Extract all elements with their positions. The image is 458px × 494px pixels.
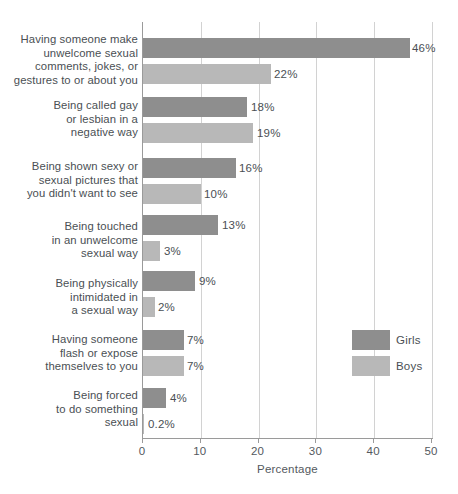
category-label-0-line-0: Having someone make: [0, 33, 138, 47]
bar-value-girls-3: 13%: [222, 215, 246, 235]
category-label-0-line-3: gestures to or about you: [0, 74, 138, 88]
bar-boys-5: [143, 356, 184, 376]
gridline-30: [316, 22, 317, 438]
category-label-0-line-2: comments, jokes, or: [0, 60, 138, 74]
bar-value-girls-4: 9%: [199, 271, 216, 291]
x-tick-10: [200, 438, 201, 443]
bar-value-boys-4: 2%: [158, 297, 175, 317]
x-tick-label-30: 30: [295, 445, 335, 457]
category-label-1: Being called gay or lesbian in a negativ…: [0, 99, 138, 140]
category-label-5: Having someone flash or expose themselve…: [0, 333, 138, 374]
category-label-6: Being forced to do something sexual: [0, 389, 138, 430]
category-label-4-line-0: Being physically: [0, 277, 138, 291]
category-label-1-line-0: Being called gay: [0, 99, 138, 113]
category-label-5-line-1: flash or expose: [0, 347, 138, 361]
bar-value-boys-0: 22%: [274, 64, 298, 84]
bar-girls-6: [143, 388, 166, 408]
category-label-0-line-1: unwelcome sexual: [0, 47, 138, 61]
category-label-1-line-1: or lesbian in a: [0, 113, 138, 127]
bar-boys-6: [143, 414, 144, 434]
bar-value-girls-1: 18%: [251, 97, 275, 117]
bar-value-boys-5: 7%: [187, 356, 204, 376]
bar-girls-4: [143, 271, 195, 291]
legend-swatch-girls: [352, 330, 390, 350]
gridline-50: [432, 22, 433, 438]
bar-girls-2: [143, 158, 236, 178]
bar-boys-0: [143, 64, 271, 84]
bar-boys-3: [143, 241, 160, 261]
x-tick-label-20: 20: [238, 445, 278, 457]
bar-chart: 0 10 20 30 40 50 Percentage Having someo…: [0, 0, 458, 494]
category-label-3: Being touched in an unwelcome sexual way: [0, 220, 138, 261]
x-tick-label-0: 0: [122, 445, 162, 457]
bar-value-boys-3: 3%: [164, 241, 181, 261]
category-label-2-line-1: sexual pictures that: [0, 174, 138, 188]
bar-boys-2: [143, 184, 201, 204]
legend-label-girls: Girls: [396, 330, 421, 350]
bar-girls-5: [143, 330, 184, 350]
bar-value-girls-6: 4%: [170, 388, 187, 408]
x-tick-30: [315, 438, 316, 443]
bar-girls-1: [143, 97, 247, 117]
x-axis-title: Percentage: [142, 463, 433, 475]
x-tick-40: [373, 438, 374, 443]
category-label-0: Having someone make unwelcome sexual com…: [0, 33, 138, 87]
bar-value-boys-1: 19%: [257, 123, 281, 143]
legend-swatch-boys: [352, 356, 390, 376]
bar-girls-3: [143, 215, 218, 235]
category-label-3-line-0: Being touched: [0, 220, 138, 234]
category-label-4-line-1: intimidated in: [0, 291, 138, 305]
x-tick-label-50: 50: [411, 445, 451, 457]
x-tick-20: [258, 438, 259, 443]
category-label-2: Being shown sexy or sexual pictures that…: [0, 160, 138, 201]
category-label-4: Being physically intimidated in a sexual…: [0, 277, 138, 318]
category-label-3-line-2: sexual way: [0, 247, 138, 261]
category-label-3-line-1: in an unwelcome: [0, 234, 138, 248]
bar-value-boys-2: 10%: [204, 184, 228, 204]
bar-boys-4: [143, 297, 155, 317]
gridline-20: [259, 22, 260, 438]
bar-girls-0: [143, 38, 410, 58]
category-label-6-line-0: Being forced: [0, 389, 138, 403]
category-label-2-line-2: you didn't want to see: [0, 187, 138, 201]
x-tick-50: [431, 438, 432, 443]
bar-boys-1: [143, 123, 253, 143]
category-label-1-line-2: negative way: [0, 126, 138, 140]
category-label-6-line-1: to do something: [0, 403, 138, 417]
category-label-4-line-2: a sexual way: [0, 304, 138, 318]
category-label-5-line-2: themselves to you: [0, 360, 138, 374]
x-axis-line: [142, 438, 433, 439]
bar-value-girls-5: 7%: [187, 330, 204, 350]
category-label-5-line-0: Having someone: [0, 333, 138, 347]
category-label-2-line-0: Being shown sexy or: [0, 160, 138, 174]
category-label-6-line-2: sexual: [0, 416, 138, 430]
x-tick-label-10: 10: [180, 445, 220, 457]
bar-value-girls-0: 46%: [412, 38, 436, 58]
bar-value-boys-6: 0.2%: [148, 414, 175, 434]
x-tick-0: [142, 438, 143, 443]
x-tick-label-40: 40: [353, 445, 393, 457]
bar-value-girls-2: 16%: [239, 158, 263, 178]
legend-label-boys: Boys: [396, 356, 422, 376]
